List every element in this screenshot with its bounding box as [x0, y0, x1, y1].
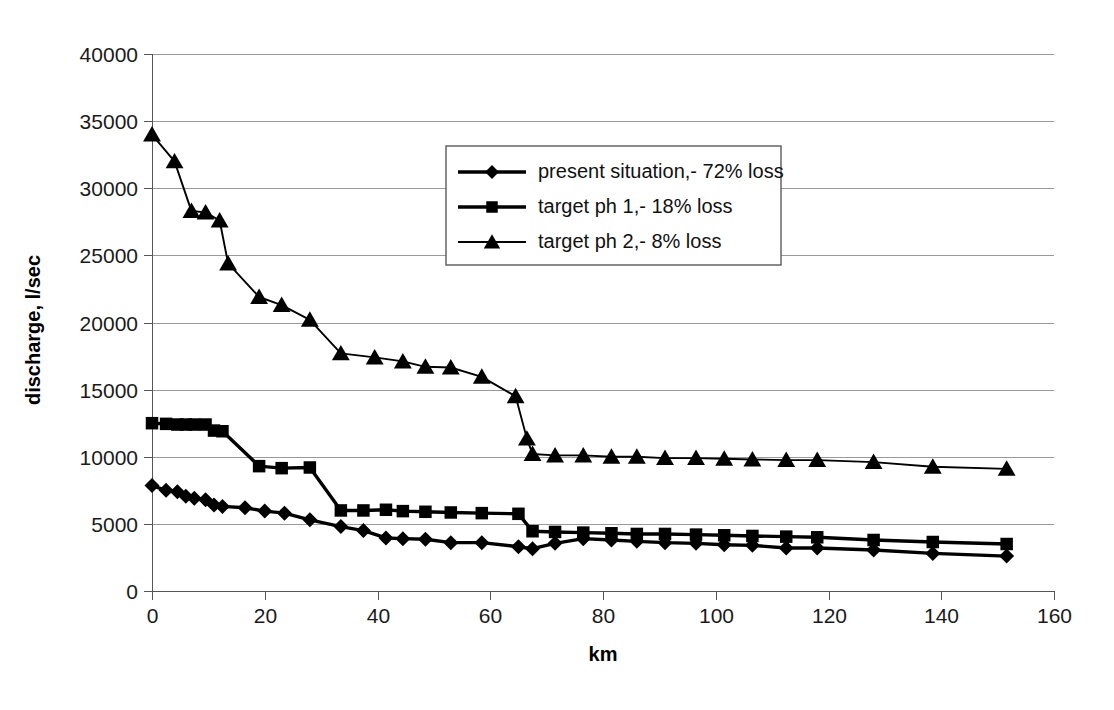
data-point-square [631, 528, 644, 541]
data-point-diamond [356, 523, 371, 538]
data-point-square [811, 531, 824, 544]
data-point-square [160, 418, 173, 431]
data-point-square [605, 527, 618, 540]
data-point-square [476, 507, 489, 520]
y-tick-label: 25000 [80, 244, 138, 267]
x-tick-label: 80 [592, 604, 615, 627]
data-point-square [253, 460, 265, 473]
data-point-square [690, 528, 703, 541]
data-point-diamond [443, 535, 458, 550]
data-point-square [397, 505, 410, 517]
data-point-diamond [474, 535, 489, 550]
y-tick-label: 35000 [80, 110, 138, 133]
data-point-square [526, 525, 539, 538]
data-point-square [549, 526, 562, 539]
data-point-diamond [302, 512, 317, 527]
y-tick-label: 0 [126, 580, 138, 603]
data-point-square [512, 508, 525, 521]
x-axis-title: km [589, 643, 618, 665]
y-tick-label: 10000 [80, 446, 138, 469]
data-point-square [275, 462, 288, 475]
data-point-square [867, 534, 880, 547]
data-point-triangle [273, 297, 291, 312]
x-tick-label: 140 [924, 604, 959, 627]
data-point-square [357, 504, 370, 517]
series-2 [146, 417, 1013, 550]
data-point-triangle [183, 203, 201, 218]
data-point-square [445, 506, 458, 519]
data-point-diamond [418, 532, 433, 547]
discharge-line-chart: 0500010000150002000025000300003500040000… [0, 0, 1114, 710]
data-point-diamond [395, 531, 410, 546]
data-point-square [188, 418, 201, 431]
data-point-diamond [145, 478, 160, 493]
x-tick-label: 160 [1037, 604, 1072, 627]
data-point-square [1000, 538, 1013, 551]
legend-item-label: target ph 2,- 8% loss [538, 230, 721, 252]
chart-container: 0500010000150002000025000300003500040000… [0, 0, 1114, 710]
data-point-diamond [238, 500, 253, 515]
data-point-diamond [999, 549, 1014, 564]
y-tick-label: 5000 [91, 513, 138, 536]
data-point-triangle [211, 212, 229, 227]
data-point-square [335, 504, 348, 517]
data-point-diamond [277, 506, 292, 521]
legend-item-label: present situation,- 72% loss [538, 160, 784, 182]
legend-item-label: target ph 1,- 18% loss [538, 195, 733, 217]
data-point-diamond [511, 539, 526, 554]
data-point-square [146, 417, 159, 430]
data-point-square [380, 504, 393, 517]
data-point-diamond [525, 541, 540, 556]
data-point-triangle [473, 368, 491, 383]
data-point-triangle [143, 126, 161, 141]
data-point-square [718, 529, 731, 542]
x-tick-label: 100 [699, 604, 734, 627]
x-tick-label: 60 [479, 604, 502, 627]
x-tick-label: 120 [812, 604, 847, 627]
data-point-square [746, 530, 759, 543]
x-tick-label: 40 [367, 604, 390, 627]
data-point-triangle [301, 311, 319, 326]
data-point-diamond [333, 519, 348, 534]
series-line [152, 423, 1007, 544]
x-tick-label: 0 [147, 604, 159, 627]
data-point-square [780, 530, 793, 543]
data-point-triangle [219, 255, 237, 270]
y-tick-label: 40000 [80, 43, 138, 66]
x-axis-ticks: 020406080100120140160 [147, 591, 1072, 627]
y-axis-ticks: 0500010000150002000025000300003500040000 [80, 43, 152, 603]
y-tick-label: 30000 [80, 177, 138, 200]
series-1 [145, 478, 1015, 563]
y-tick-label: 20000 [80, 312, 138, 335]
data-point-square [659, 528, 672, 541]
data-point-square [577, 526, 590, 539]
data-point-square [216, 425, 229, 438]
y-tick-label: 15000 [80, 379, 138, 402]
x-tick-label: 20 [254, 604, 277, 627]
data-point-square [486, 201, 498, 213]
data-point-square [419, 506, 432, 518]
y-axis-title: discharge, l/sec [22, 255, 44, 405]
data-point-square [927, 536, 940, 549]
data-point-diamond [257, 504, 272, 519]
data-point-square [304, 461, 317, 474]
data-point-diamond [378, 530, 393, 545]
data-point-triangle [524, 446, 542, 461]
data-point-triangle [518, 430, 536, 445]
chart-legend: present situation,- 72% losstarget ph 1,… [446, 146, 784, 265]
